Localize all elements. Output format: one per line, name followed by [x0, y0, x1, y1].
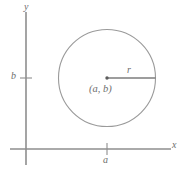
y-axis-label: y	[24, 2, 28, 12]
y-axis-tick-label-b: b	[11, 71, 16, 81]
circle-center-dot	[105, 76, 108, 79]
x-axis-label: x	[172, 140, 176, 150]
x-axis-tick-label-a: a	[103, 155, 108, 165]
figure-container: y x b a r (a, b)	[0, 0, 186, 173]
radius-label: r	[127, 65, 131, 75]
circle-center-label: (a, b)	[89, 84, 112, 95]
